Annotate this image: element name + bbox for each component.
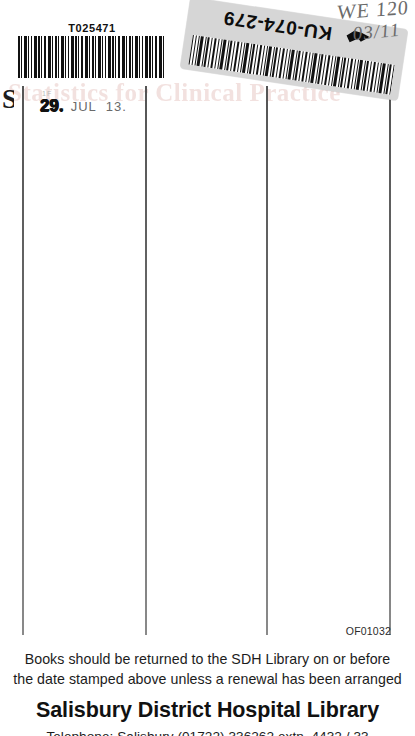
call-number-label: KU-074-279 [180,0,408,101]
rule-3 [266,86,268,635]
rule-2 [145,86,147,635]
footer-block: Books should be returned to the SDH Libr… [0,649,415,736]
date-stamp-day: 29. [40,96,64,115]
call-number-code: KU-074-279 [222,6,334,44]
library-telephone: Telephone: Salisbury (01722) 336262 extn… [0,729,415,736]
date-stamp-year: 13. [106,99,127,114]
arrow-pointer-icon [345,29,372,47]
return-notice-line-2: the date stamped above unless a renewal … [0,669,415,689]
rule-1 [22,86,24,635]
barcode-icon [18,36,166,78]
accession-barcode: T025471 [18,22,166,78]
date-stamp-month: JUL [71,99,97,114]
library-name: Salisbury District Hospital Library [0,698,415,723]
return-notice-line-1: Books should be returned to the SDH Libr… [0,649,415,669]
form-code: OF01032 [346,625,391,637]
date-stamp: 29.JUL13. [40,96,127,116]
bleed-through-edge-glyph: S [2,86,14,112]
accession-barcode-number: T025471 [18,22,166,34]
scanned-page: Statistics for Clinical Practice S T0254… [0,0,415,736]
rule-4 [389,86,391,635]
